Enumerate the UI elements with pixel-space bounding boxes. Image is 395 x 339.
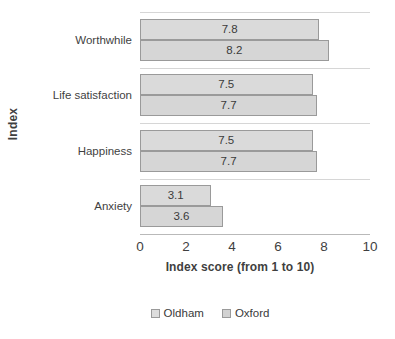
bar-oldham-worthwhile: 7.8 [140, 19, 319, 40]
bar-value-label: 3.6 [173, 211, 189, 223]
plot-area: 7.88.27.57.77.57.73.13.6 [140, 12, 370, 234]
gridline [140, 68, 370, 69]
bar-oldham-life-satisfaction: 7.5 [140, 74, 313, 95]
chart-legend: OldhamOxford [60, 303, 360, 323]
bar-oxford-anxiety: 3.6 [140, 206, 223, 227]
x-tick-label-2: 2 [171, 238, 201, 255]
x-axis-title: Index score (from 1 to 10) [100, 260, 380, 274]
legend-item-oldham[interactable]: Oldham [151, 307, 204, 319]
bar-value-label: 7.5 [218, 79, 234, 91]
x-tick-label-10: 10 [355, 238, 385, 255]
legend-label: Oldham [164, 307, 204, 319]
legend-label: Oxford [235, 307, 270, 319]
bar-value-label: 7.7 [221, 155, 237, 167]
chart-screenshot: Index WorthwhileLife satisfactionHappine… [0, 0, 395, 339]
gridline [140, 12, 370, 13]
bar-oldham-anxiety: 3.1 [140, 185, 211, 206]
legend-swatch-icon [222, 309, 231, 318]
x-tick-label-4: 4 [217, 238, 247, 255]
x-tick-label-6: 6 [263, 238, 293, 255]
gridline [140, 179, 370, 180]
category-label-anxiety: Anxiety [94, 199, 132, 213]
bar-value-label: 7.7 [221, 100, 237, 112]
x-axis-tick-labels: 0246810 [140, 238, 370, 256]
bar-value-label: 7.8 [222, 23, 238, 35]
x-tick-label-8: 8 [309, 238, 339, 255]
bar-value-label: 3.1 [168, 190, 184, 202]
bar-value-label: 8.2 [226, 44, 242, 56]
category-label-life-satisfaction: Life satisfaction [53, 88, 132, 102]
x-axis-line [140, 234, 370, 235]
bar-oxford-happiness: 7.7 [140, 151, 317, 172]
category-label-worthwhile: Worthwhile [75, 33, 132, 47]
y-axis-title-label: Index [6, 108, 20, 140]
category-axis-labels: WorthwhileLife satisfactionHappinessAnxi… [22, 12, 136, 234]
x-tick-label-0: 0 [125, 238, 155, 255]
bar-value-label: 7.5 [218, 134, 234, 146]
category-label-happiness: Happiness [78, 144, 132, 158]
gridline [140, 123, 370, 124]
bar-oxford-worthwhile: 8.2 [140, 40, 329, 61]
y-axis-title: Index [2, 96, 24, 152]
legend-swatch-icon [151, 309, 160, 318]
legend-item-oxford[interactable]: Oxford [222, 307, 270, 319]
bar-oldham-happiness: 7.5 [140, 130, 313, 151]
bar-oxford-life-satisfaction: 7.7 [140, 95, 317, 116]
